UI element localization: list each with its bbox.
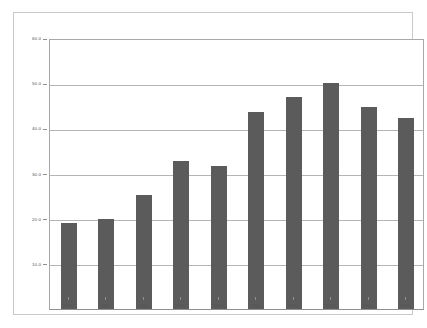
y-tick-label: 30.0 [32, 172, 41, 177]
x-tick-mark [68, 297, 69, 300]
x-tick-mark [180, 297, 181, 300]
x-tick-mark [405, 297, 406, 300]
y-axis-labels: 10.020.030.040.050.060.0 [14, 13, 47, 316]
x-tick-label: 1950 [240, 303, 270, 309]
bar[interactable] [136, 195, 152, 309]
x-tick-label: 1980 [353, 303, 383, 309]
x-tick-label: 1990 [390, 303, 420, 309]
x-tick-label: 1960 [278, 303, 308, 309]
x-tick-label: 1900 [53, 303, 83, 309]
bar[interactable] [211, 166, 227, 309]
bars-layer [50, 40, 423, 309]
bar[interactable] [98, 219, 114, 309]
y-tick-label: 40.0 [32, 126, 41, 131]
bar[interactable] [398, 118, 414, 309]
y-tick-label: 50.0 [32, 81, 41, 86]
x-tick-mark [143, 297, 144, 300]
y-tick-mark [43, 264, 47, 265]
y-tick-label: 10.0 [32, 262, 41, 267]
y-tick-label: 20.0 [32, 217, 41, 222]
x-tick-mark [368, 297, 369, 300]
x-tick-label: 1920 [128, 303, 158, 309]
y-tick-mark [43, 219, 47, 220]
x-tick-mark [218, 297, 219, 300]
y-tick-mark [43, 84, 47, 85]
x-tick-mark [330, 297, 331, 300]
plot-box [49, 39, 424, 310]
x-tick-mark [293, 297, 294, 300]
plot-area [49, 27, 424, 312]
x-tick-label: 1970 [315, 303, 345, 309]
x-tick-label: 1930 [165, 303, 195, 309]
y-tick-mark [43, 39, 47, 40]
bar[interactable] [173, 161, 189, 309]
chart-root: 10.020.030.040.050.060.0 190019101920193… [0, 0, 427, 328]
y-tick-label: 60.0 [32, 36, 41, 41]
x-tick-label: 1910 [90, 303, 120, 309]
bar[interactable] [361, 107, 377, 309]
bar[interactable] [286, 97, 302, 309]
bar[interactable] [248, 112, 264, 309]
x-tick-mark [105, 297, 106, 300]
y-tick-mark [43, 174, 47, 175]
x-tick-mark [255, 297, 256, 300]
x-tick-label: 1940 [203, 303, 233, 309]
y-tick-mark [43, 129, 47, 130]
x-axis-labels: 1900191019201930194019501960197019801990 [49, 297, 424, 315]
chart-frame: 10.020.030.040.050.060.0 190019101920193… [13, 12, 413, 315]
bar[interactable] [323, 83, 339, 309]
